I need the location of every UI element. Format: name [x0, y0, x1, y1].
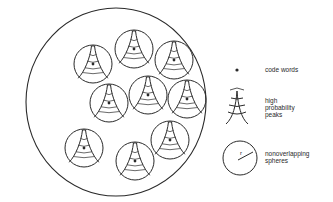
code-word-sphere — [151, 121, 189, 159]
code-word-dot — [134, 160, 137, 163]
code-word-dot — [92, 63, 95, 66]
code-word-dot — [133, 48, 136, 51]
code-word-dot — [147, 94, 150, 97]
legend-label-spheres-line1: nonoverlapping — [265, 150, 309, 157]
dot-icon — [235, 68, 238, 71]
code-word-sphere — [90, 84, 128, 122]
code-word-dot — [169, 139, 172, 142]
sphere-radius-icon — [223, 141, 257, 175]
code-word-sphere — [129, 76, 167, 114]
code-word-sphere — [155, 41, 193, 79]
code-word-spheres — [65, 30, 206, 180]
legend-label-peaks-line2: probability — [265, 104, 295, 111]
code-word-sphere — [168, 80, 206, 118]
sphere-packing-diagram: r — [0, 0, 333, 202]
code-word-dot — [108, 102, 111, 105]
peak-icon — [226, 88, 248, 124]
code-word-sphere — [74, 45, 112, 83]
code-word-sphere — [115, 30, 153, 68]
code-word-dot — [186, 98, 189, 101]
legend-label-code-words: code words — [265, 66, 298, 73]
code-word-sphere — [65, 129, 103, 167]
legend-label-peaks-line3: peaks — [265, 111, 282, 118]
code-word-dot — [83, 147, 86, 150]
code-word-sphere — [116, 142, 154, 180]
legend-label-peaks-line1: high — [265, 97, 277, 104]
radius-label: r — [240, 150, 242, 156]
legend-label-spheres-line2: spheres — [265, 157, 288, 164]
code-word-dot — [173, 59, 176, 62]
legend-icons — [223, 68, 257, 175]
